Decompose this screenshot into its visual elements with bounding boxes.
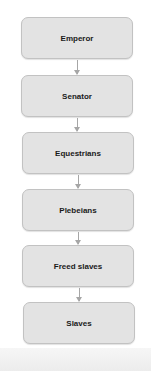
- node-plebeians: Plebeians: [22, 189, 134, 231]
- arrow-down-icon: [79, 288, 80, 301]
- node-emperor: Emperor: [21, 17, 133, 59]
- node-label: Senator: [62, 92, 92, 101]
- node-senator: Senator: [21, 75, 133, 117]
- node-label: Equestrians: [55, 149, 101, 158]
- arrow-down-icon: [78, 175, 79, 188]
- bottom-gradient-band: [0, 348, 151, 371]
- arrow-down-icon: [78, 232, 79, 244]
- node-label: Slaves: [66, 319, 91, 328]
- node-label: Emperor: [61, 34, 94, 43]
- arrow-down-icon: [77, 60, 78, 74]
- arrow-down-icon: [77, 118, 78, 131]
- node-slaves: Slaves: [23, 302, 135, 344]
- node-equestrians: Equestrians: [22, 132, 134, 174]
- node-label: Plebeians: [59, 206, 96, 215]
- node-freed-slaves: Freed slaves: [22, 245, 134, 287]
- node-label: Freed slaves: [54, 262, 102, 271]
